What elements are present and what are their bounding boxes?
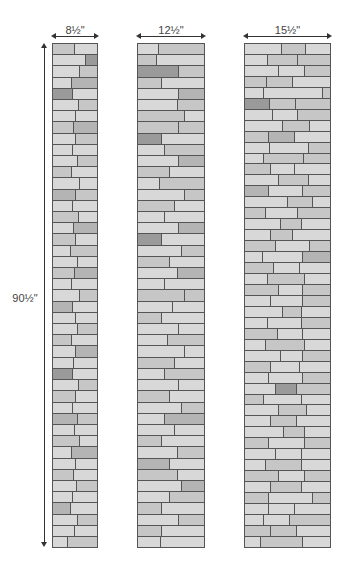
- brick: [53, 380, 78, 390]
- brick: [303, 296, 330, 306]
- strip3-width-label: 15½": [244, 24, 331, 36]
- brick-row: [245, 384, 330, 394]
- brick-row: [138, 414, 204, 424]
- brick: [302, 449, 330, 459]
- brick: [73, 403, 97, 413]
- brick: [271, 296, 303, 306]
- brick: [53, 503, 70, 513]
- brick: [138, 201, 174, 211]
- brick: [293, 77, 330, 87]
- brick-row: [138, 324, 204, 334]
- brick-row: [53, 78, 97, 88]
- brick: [271, 362, 299, 372]
- brick-row: [138, 246, 204, 256]
- brick-row: [245, 219, 330, 229]
- brick-row: [138, 515, 204, 525]
- brick: [179, 324, 204, 334]
- brick: [170, 257, 204, 267]
- brick: [297, 384, 330, 394]
- brick-row: [53, 167, 97, 177]
- brick: [138, 358, 174, 368]
- brick: [53, 358, 73, 368]
- brick: [245, 482, 270, 492]
- brick: [138, 346, 184, 356]
- brick: [245, 515, 263, 525]
- brick: [53, 302, 72, 312]
- brick: [279, 405, 306, 415]
- brick-row: [53, 470, 97, 480]
- brick-row: [138, 257, 204, 267]
- brick: [68, 537, 97, 547]
- brick-row: [53, 436, 97, 446]
- brick: [245, 460, 265, 470]
- brick-row: [138, 302, 204, 312]
- brick-row: [53, 425, 97, 435]
- brick: [75, 526, 97, 536]
- brick: [268, 55, 297, 65]
- brick: [303, 329, 330, 339]
- brick: [245, 471, 278, 481]
- brick: [305, 427, 330, 437]
- brick: [297, 526, 330, 536]
- brick-row: [245, 329, 330, 339]
- brick: [295, 504, 330, 514]
- brick: [138, 414, 164, 424]
- brick: [73, 201, 97, 211]
- brick-row: [53, 369, 97, 379]
- brick: [276, 384, 296, 394]
- brick: [245, 384, 275, 394]
- brick: [182, 481, 204, 491]
- brick: [72, 279, 97, 289]
- brick: [74, 358, 97, 368]
- brick: [279, 175, 308, 185]
- brick: [245, 307, 282, 317]
- brick: [138, 290, 184, 300]
- brick: [53, 234, 75, 244]
- brick: [245, 143, 269, 153]
- brick: [270, 143, 308, 153]
- strip-3: [244, 43, 331, 548]
- brick: [53, 268, 74, 278]
- brick: [165, 414, 204, 424]
- brick: [179, 380, 204, 390]
- brick: [271, 230, 293, 240]
- brick-row: [245, 318, 330, 328]
- brick-row: [245, 504, 330, 514]
- brick: [263, 252, 303, 262]
- brick: [53, 66, 79, 76]
- brick: [266, 460, 301, 470]
- brick-row: [138, 470, 204, 480]
- brick: [53, 178, 79, 188]
- brick-row: [245, 88, 330, 98]
- brick-row: [138, 223, 204, 233]
- brick-row: [53, 66, 97, 76]
- brick: [304, 154, 330, 164]
- height-label: 90½": [10, 292, 40, 304]
- brick-row: [53, 290, 97, 300]
- brick-row: [138, 178, 204, 188]
- brick-row: [53, 111, 97, 121]
- brick-row: [138, 335, 204, 345]
- brick: [53, 89, 72, 99]
- brick: [138, 380, 178, 390]
- brick-row: [245, 373, 330, 383]
- brick-row: [138, 436, 204, 446]
- brick-row: [53, 358, 97, 368]
- brick: [138, 100, 177, 110]
- brick: [245, 110, 272, 120]
- brick: [76, 134, 98, 144]
- brick-row: [245, 427, 330, 437]
- brick: [245, 373, 268, 383]
- brick: [75, 44, 97, 54]
- brick-row: [138, 156, 204, 166]
- brick: [138, 537, 160, 547]
- brick: [53, 346, 75, 356]
- brick: [182, 246, 204, 256]
- brick-row: [245, 121, 330, 131]
- brick: [157, 55, 204, 65]
- brick: [245, 44, 281, 54]
- brick-row: [53, 89, 97, 99]
- brick-row: [53, 246, 97, 256]
- brick: [53, 257, 77, 267]
- brick-row: [53, 268, 97, 278]
